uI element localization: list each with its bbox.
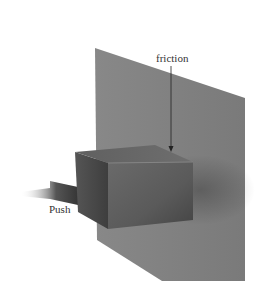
box-side-face xyxy=(75,152,108,229)
friction-diagram xyxy=(0,0,260,281)
box-front-face xyxy=(108,162,193,229)
friction-label: friction xyxy=(156,52,188,64)
push-label: Push xyxy=(49,203,70,215)
